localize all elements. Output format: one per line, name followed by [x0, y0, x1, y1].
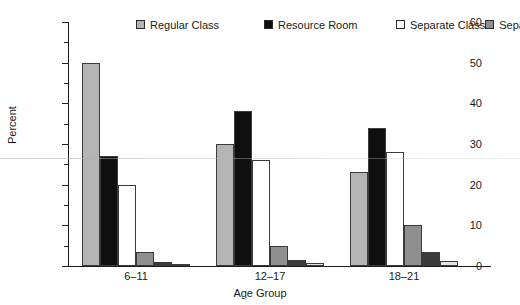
bar	[404, 225, 422, 266]
y-axis-tick-label: 40	[470, 98, 482, 109]
y-axis-minor-tick	[64, 205, 68, 206]
bar	[252, 160, 270, 266]
y-axis-tick-label: 30	[470, 139, 482, 150]
y-axis-tick-label: 20	[470, 179, 482, 190]
y-axis-minor-tick	[64, 164, 68, 165]
y-axis-minor-tick	[64, 124, 68, 125]
x-axis-label: Age Group	[0, 287, 520, 299]
x-axis-tick-label: 6–11	[124, 270, 148, 282]
y-axis-tick	[62, 266, 68, 267]
bar	[440, 261, 458, 266]
y-axis-minor-tick	[64, 246, 68, 247]
y-axis-tick-label: 60	[470, 17, 482, 28]
bar	[100, 156, 118, 266]
bar	[368, 128, 386, 266]
bar	[306, 263, 324, 266]
x-axis-tick-label: 12–17	[255, 270, 286, 282]
bar	[82, 63, 100, 266]
x-axis-line	[68, 266, 491, 267]
plot-area: 0102030405060	[68, 22, 490, 266]
bar	[154, 262, 172, 266]
y-axis-tick	[62, 63, 68, 64]
y-axis-tick	[62, 22, 68, 23]
y-axis-tick	[62, 144, 68, 145]
y-axis-minor-tick	[64, 83, 68, 84]
bar	[270, 246, 288, 266]
bar	[288, 260, 306, 266]
bar	[386, 152, 404, 266]
legend-item-label: Separate School	[499, 19, 520, 31]
bar	[216, 144, 234, 266]
y-axis-tick-label: 50	[470, 57, 482, 68]
y-axis-tick	[62, 225, 68, 226]
bar-chart-figure: Regular ClassResource RoomSeparate Class…	[0, 0, 520, 305]
y-axis-tick-label: 10	[470, 220, 482, 231]
bar	[118, 185, 136, 266]
x-axis-tick-label: 18–21	[389, 270, 420, 282]
y-axis-minor-tick	[64, 42, 68, 43]
bar	[422, 252, 440, 266]
bar	[136, 252, 154, 266]
y-axis-tick	[62, 103, 68, 104]
y-axis-tick	[62, 185, 68, 186]
legend-item[interactable]: Separate School	[485, 17, 520, 32]
y-axis-tick-label: 0	[476, 261, 482, 272]
bar	[234, 111, 252, 266]
bar	[350, 172, 368, 266]
bar	[172, 264, 190, 266]
y-axis-label: Percent	[6, 106, 18, 144]
